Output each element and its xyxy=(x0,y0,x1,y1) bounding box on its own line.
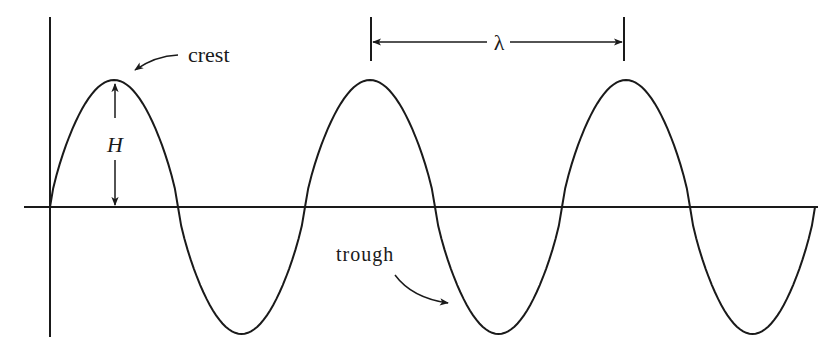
height-marker: H xyxy=(106,84,124,205)
wave-diagram: H λ crest trough xyxy=(0,0,834,361)
crest-annotation: crest xyxy=(135,42,230,70)
height-label: H xyxy=(106,132,124,157)
crest-label: crest xyxy=(188,42,230,67)
trough-label: trough xyxy=(336,243,394,266)
wavelength-label: λ xyxy=(494,30,505,55)
wavelength-marker: λ xyxy=(371,17,624,61)
trough-annotation: trough xyxy=(336,243,448,303)
